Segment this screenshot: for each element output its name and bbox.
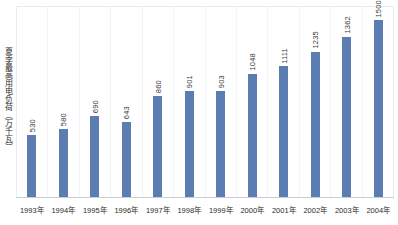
bar[interactable]	[374, 20, 383, 198]
bar-value-label: 580	[59, 113, 68, 126]
bar[interactable]	[311, 52, 320, 198]
bar-value-text: 1111	[279, 48, 288, 64]
bar-group[interactable]: 1500	[363, 6, 395, 198]
bar-chart: 夏季最高用电负荷（万千瓦） 53058069064386090190310481…	[0, 0, 398, 225]
bar[interactable]	[342, 37, 351, 198]
x-axis-tick-label: 2004年	[363, 200, 395, 222]
bar-value-text: 860	[153, 80, 162, 93]
x-axis-tick-label: 1994年	[48, 200, 80, 222]
x-axis-tick-label: 1997年	[142, 200, 174, 222]
x-axis-tick-label: 1993年	[16, 200, 48, 222]
bar[interactable]	[122, 122, 131, 198]
bar-value-text: 690	[90, 100, 99, 113]
bar-group[interactable]: 1111	[268, 6, 300, 198]
bar-value-label: 643	[122, 106, 131, 119]
bar-group[interactable]: 690	[79, 6, 111, 198]
x-axis-tick-label: 2000年	[237, 200, 269, 222]
bar-group[interactable]: 1048	[237, 6, 269, 198]
bar-value-label: 903	[216, 75, 225, 88]
bar-value-label: 860	[153, 80, 162, 93]
bar-group[interactable]: 901	[174, 6, 206, 198]
bar-value-text: 1500	[374, 0, 383, 17]
bar-value-text: 580	[59, 113, 68, 126]
bar[interactable]	[248, 74, 257, 198]
x-axis-tick-labels: 1993年1994年1995年1996年1997年1998年1999年2000年…	[16, 200, 394, 222]
bar-value-text: 1048	[248, 53, 257, 71]
bar-value-label: 530	[27, 119, 36, 132]
x-axis-tick-label: 1996年	[111, 200, 143, 222]
x-axis-tick-label: 1998年	[174, 200, 206, 222]
bar-value-text: 530	[27, 119, 36, 132]
bar[interactable]	[185, 91, 194, 198]
bar[interactable]	[153, 96, 162, 198]
bar-group[interactable]: 1235	[300, 6, 332, 198]
bar-value-text: 1362	[342, 16, 351, 34]
x-axis-line	[16, 197, 394, 198]
bar-value-label: 901	[185, 75, 194, 88]
bar-value-text: 903	[216, 75, 225, 88]
bar-group[interactable]: 580	[48, 6, 80, 198]
x-axis-tick-label: 2003年	[331, 200, 363, 222]
bar-group[interactable]: 860	[142, 6, 174, 198]
bars-layer: 5305806906438609019031048111112351362150…	[16, 6, 394, 198]
bar[interactable]	[90, 116, 99, 198]
x-axis-tick-label: 1995年	[79, 200, 111, 222]
bar-group[interactable]: 903	[205, 6, 237, 198]
bar[interactable]	[216, 91, 225, 198]
bar-group[interactable]: 1362	[331, 6, 363, 198]
bar-group[interactable]: 530	[16, 6, 48, 198]
bar[interactable]	[59, 129, 68, 198]
x-axis-tick-label: 1999年	[205, 200, 237, 222]
bar-value-label: 1362	[342, 16, 351, 34]
bar-value-label: 1111	[279, 48, 288, 64]
bar-value-text: 643	[122, 106, 131, 119]
bar-value-label: 1235	[311, 31, 320, 49]
bar[interactable]	[27, 135, 36, 198]
x-axis-tick-label: 2002年	[300, 200, 332, 222]
bar-value-text: 1235	[311, 31, 320, 49]
y-axis-title: 夏季最高用电负荷（万千瓦）	[1, 14, 15, 184]
bar-value-label: 690	[90, 100, 99, 113]
bar-value-label: 1500	[374, 0, 383, 17]
bar[interactable]	[279, 66, 288, 198]
x-axis-tick-label: 2001年	[268, 200, 300, 222]
bar-value-label: 1048	[248, 53, 257, 71]
bar-group[interactable]: 643	[111, 6, 143, 198]
bar-value-text: 901	[185, 75, 194, 88]
